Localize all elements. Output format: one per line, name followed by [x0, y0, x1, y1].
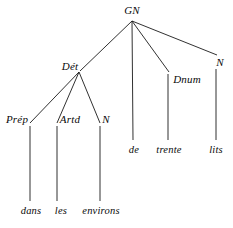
tree-node-gn: GN	[124, 5, 140, 16]
tree-edges-layer	[0, 0, 233, 228]
tree-leaf-environs: environs	[82, 206, 119, 217]
tree-node-dnum: Dnum	[173, 74, 201, 85]
tree-node-det: Dét	[62, 61, 78, 72]
tree-leaf-trente: trente	[156, 145, 181, 156]
tree-leaf-les: les	[55, 206, 67, 217]
tree-node-n-det: N	[102, 114, 110, 125]
tree-edge-det-to-n_det	[79, 72, 100, 123]
tree-node-artd: Artd	[60, 114, 80, 125]
tree-edge-gn-to-det	[80, 21, 132, 71]
tree-node-prep: Prép	[6, 114, 28, 125]
tree-edge-group	[30, 21, 217, 201]
tree-leaf-lits: lits	[209, 145, 223, 156]
tree-node-n-right: N	[216, 57, 224, 68]
tree-edge-gn-to-de	[132, 21, 133, 140]
syntax-tree-diagram: GN Dét Dnum N Prép Artd N de trente lits…	[0, 0, 233, 228]
tree-leaf-de: de	[129, 145, 139, 156]
tree-leaf-dans: dans	[21, 206, 42, 217]
